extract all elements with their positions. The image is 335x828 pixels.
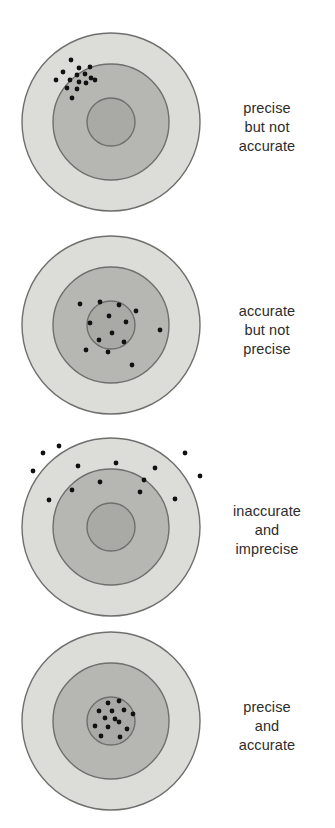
data-point [138, 490, 143, 495]
caption-inaccurate-and-imprecise: inaccurateandimprecise [208, 502, 326, 559]
bullseye [87, 697, 135, 745]
data-point [78, 302, 83, 307]
data-point [97, 709, 102, 714]
middle-ring [53, 64, 169, 180]
outer-ring [22, 33, 200, 211]
data-point [57, 444, 62, 449]
outer-ring [22, 438, 200, 616]
target-row: precisebut notaccurate [0, 0, 335, 828]
bullseye [87, 301, 135, 349]
target-row: inaccurateandimprecise [0, 0, 335, 828]
data-point [93, 78, 98, 83]
data-point [70, 488, 75, 493]
data-point [77, 66, 82, 71]
data-point [117, 303, 122, 308]
data-point [110, 331, 115, 336]
target-row: accuratebut notprecise [0, 0, 335, 828]
target-4-graphic [0, 0, 335, 828]
middle-ring [53, 469, 169, 585]
data-point [68, 78, 73, 83]
data-point [183, 451, 188, 456]
data-point [125, 727, 130, 732]
data-point [106, 701, 111, 706]
target-row: preciseandaccurate [0, 0, 335, 828]
caption-line: accurate [208, 137, 326, 156]
caption-line: precise [208, 340, 326, 359]
data-point [114, 461, 119, 466]
data-point [98, 300, 103, 305]
data-point [93, 724, 98, 729]
data-point [31, 469, 36, 474]
caption-precise-but-not-accurate: precisebut notaccurate [208, 99, 326, 156]
data-point [84, 348, 89, 353]
data-point [173, 497, 178, 502]
data-point [65, 86, 70, 91]
target-3-graphic [0, 0, 335, 828]
data-point [122, 340, 127, 345]
outer-ring [22, 632, 200, 810]
data-point [89, 76, 94, 81]
data-point [98, 480, 103, 485]
dot-group [31, 444, 203, 503]
caption-line: imprecise [208, 540, 326, 559]
middle-ring [53, 663, 169, 779]
caption-line: and [208, 521, 326, 540]
data-point [106, 725, 111, 730]
data-point [75, 73, 80, 78]
data-point [118, 735, 123, 740]
data-point [103, 716, 108, 721]
data-point [198, 474, 203, 479]
data-point [99, 734, 104, 739]
data-point [77, 80, 82, 85]
data-point [130, 363, 135, 368]
caption-line: accurate [208, 736, 326, 755]
data-point [70, 96, 75, 101]
data-point [110, 709, 115, 714]
dot-group [78, 300, 163, 368]
caption-line: inaccurate [208, 502, 326, 521]
target-1-graphic [0, 0, 335, 828]
data-point [113, 717, 118, 722]
data-point [84, 81, 89, 86]
data-point [122, 708, 127, 713]
middle-ring [53, 267, 169, 383]
data-point [107, 314, 112, 319]
data-point [54, 78, 59, 83]
data-point [134, 309, 139, 314]
caption-line: precise [208, 99, 326, 118]
data-point [75, 87, 80, 92]
data-point [69, 58, 74, 63]
data-point [158, 328, 163, 333]
caption-line: but not [208, 118, 326, 137]
data-point [76, 464, 81, 469]
data-point [142, 478, 147, 483]
dot-group [93, 699, 136, 740]
data-point [117, 699, 122, 704]
outer-ring [22, 236, 200, 414]
target-2-graphic [0, 0, 335, 828]
caption-accurate-but-not-precise: accuratebut notprecise [208, 302, 326, 359]
dot-group [54, 58, 98, 101]
precision-accuracy-figure: precisebut notaccurateaccuratebut notpre… [0, 0, 335, 828]
caption-precise-and-accurate: preciseandaccurate [208, 698, 326, 755]
data-point [47, 498, 52, 503]
data-point [106, 350, 111, 355]
data-point [117, 720, 122, 725]
caption-line: but not [208, 321, 326, 340]
data-point [83, 72, 88, 77]
data-point [88, 65, 93, 70]
data-point [97, 338, 102, 343]
bullseye [87, 98, 135, 146]
data-point [61, 70, 66, 75]
bullseye [87, 503, 135, 551]
data-point [153, 466, 158, 471]
caption-line: precise [208, 698, 326, 717]
caption-line: and [208, 717, 326, 736]
data-point [41, 451, 46, 456]
caption-line: accurate [208, 302, 326, 321]
data-point [131, 712, 136, 717]
data-point [88, 321, 93, 326]
data-point [124, 320, 129, 325]
